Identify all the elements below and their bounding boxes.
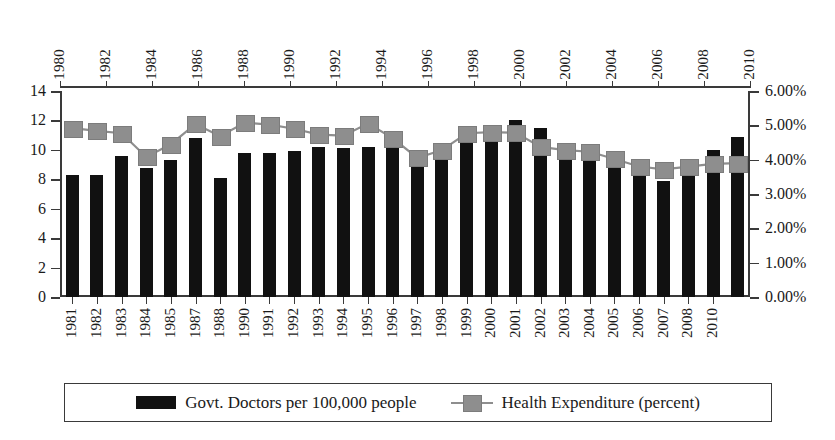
line-marker (433, 143, 452, 160)
bottom-axis-tick (343, 297, 344, 304)
line-marker (335, 128, 354, 145)
left-axis-tick-label: 2 (38, 260, 46, 276)
left-axis-tick (51, 120, 60, 122)
top-axis-tick-label: 1996 (420, 49, 435, 80)
left-value-axis: 02468101214 (0, 91, 60, 297)
top-axis-tick (428, 81, 429, 88)
line-marker (532, 139, 551, 156)
line-marker (310, 127, 329, 144)
top-axis-tick (750, 81, 751, 88)
bottom-axis-tick (72, 297, 73, 304)
top-axis-tick-label: 1998 (466, 49, 481, 80)
line-marker (705, 156, 724, 173)
right-axis-tick (750, 91, 759, 93)
line-marker (162, 137, 181, 154)
top-axis-tick-label: 1986 (190, 49, 205, 80)
line-marker (655, 162, 674, 179)
line-marker (483, 125, 502, 142)
bottom-axis-tick (442, 297, 443, 304)
bottom-axis-tick (713, 297, 714, 304)
line-marker (360, 116, 379, 133)
top-axis-tick-label: 2004 (604, 49, 619, 80)
bottom-axis-tick-label: 2004 (582, 308, 597, 338)
left-axis-tick-label: 14 (30, 83, 46, 99)
line-marker (557, 143, 576, 160)
top-axis-tick (336, 81, 337, 88)
top-axis-tick-label: 2000 (512, 49, 527, 80)
bottom-axis-tick-label: 2006 (631, 308, 646, 338)
bottom-axis-tick (565, 297, 566, 304)
bottom-axis-tick-label: 1985 (163, 308, 178, 338)
bottom-axis-tick (294, 297, 295, 304)
bottom-axis-tick-label: 2002 (533, 308, 548, 338)
left-axis-tick-label: 6 (38, 201, 46, 217)
line-marker (113, 126, 132, 143)
top-axis-tick-label: 1994 (374, 49, 389, 80)
line-marker (138, 149, 157, 166)
top-axis-tick (474, 81, 475, 88)
line-marker (261, 117, 280, 134)
bottom-axis-tick-label: 1983 (114, 308, 129, 338)
top-axis-line (60, 86, 750, 88)
top-axis-tick-label: 1980 (52, 49, 67, 80)
line-marker (581, 144, 600, 161)
bottom-axis-tick-label: 1997 (409, 308, 424, 338)
top-axis-tick-label: 2006 (650, 49, 665, 80)
top-axis-tick-label: 1984 (144, 49, 159, 80)
bottom-axis-tick-label: 1981 (64, 308, 79, 338)
line-marker (286, 121, 305, 138)
bottom-axis-tick-label: 1990 (237, 308, 252, 338)
bottom-axis-tick (590, 297, 591, 304)
left-axis-tick (51, 238, 60, 240)
line-marker (384, 131, 403, 148)
bottom-axis-tick-label: 2010 (705, 308, 720, 338)
bottom-axis-tick (97, 297, 98, 304)
top-axis-tick-label: 2002 (558, 49, 573, 80)
bottom-axis-tick (146, 297, 147, 304)
bottom-axis-tick (491, 297, 492, 304)
bottom-axis-tick (220, 297, 221, 304)
bottom-axis-tick-label: 1987 (188, 308, 203, 338)
line-marker (458, 126, 477, 143)
bottom-axis-tick (196, 297, 197, 304)
chart-figure: 1980198219841986198819901992199419961998… (0, 0, 835, 440)
bottom-axis-tick-label: 2000 (483, 308, 498, 338)
line-marker (729, 156, 748, 173)
line-series-layer (60, 91, 750, 297)
line-marker (631, 159, 650, 176)
right-axis-tick-label: 2.00% (765, 220, 806, 236)
top-axis-tick-label: 1988 (236, 49, 251, 80)
top-axis-tick (382, 81, 383, 88)
line-marker (64, 121, 83, 138)
right-axis-tick (750, 160, 759, 162)
right-axis-tick-label: 3.00% (765, 186, 806, 202)
left-axis-tick-label: 10 (30, 142, 46, 158)
right-axis-tick-label: 5.00% (765, 117, 806, 133)
top-axis-tick (612, 81, 613, 88)
bottom-axis-tick (639, 297, 640, 304)
legend-label-doctors: Govt. Doctors per 100,000 people (185, 394, 416, 411)
right-axis-tick-label: 4.00% (765, 152, 806, 168)
right-axis-tick-label: 6.00% (765, 83, 806, 99)
plot-area (60, 91, 750, 297)
bottom-axis-tick (393, 297, 394, 304)
left-axis-tick (51, 209, 60, 211)
legend-item-health-expenditure: Health Expenditure (percent) (451, 394, 700, 411)
right-axis-tick-label: 0.00% (765, 289, 806, 305)
left-axis-tick-label: 0 (38, 289, 46, 305)
right-percent-axis: 0.00%1.00%2.00%3.00%4.00%5.00%6.00% (750, 91, 835, 297)
top-axis-tick-label: 2008 (696, 49, 711, 80)
top-axis-tick (520, 81, 521, 88)
bottom-axis-tick-label: 1995 (360, 308, 375, 338)
line-marker (212, 129, 231, 146)
line-marker (606, 151, 625, 168)
bottom-axis-tick-label: 1984 (138, 308, 153, 338)
line-marker (187, 116, 206, 133)
bottom-axis-tick-label: 2003 (557, 308, 572, 338)
bottom-axis-tick-label: 1991 (261, 308, 276, 338)
line-marker (680, 159, 699, 176)
top-axis-tick-label: 1982 (98, 49, 113, 80)
right-axis-tick (750, 194, 759, 196)
line-marker (88, 123, 107, 140)
left-axis-tick (51, 91, 60, 93)
